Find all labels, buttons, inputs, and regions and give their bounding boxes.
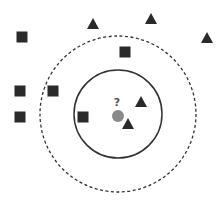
triangle-point	[122, 118, 134, 129]
query-label: ?	[114, 96, 120, 109]
triangle-point	[87, 18, 99, 29]
triangle-point	[135, 96, 147, 107]
square-point	[17, 32, 28, 43]
square-point	[120, 47, 131, 58]
square-point	[15, 86, 26, 97]
square-point	[78, 112, 89, 123]
triangle-point	[145, 13, 157, 24]
query-point	[112, 110, 124, 122]
square-point	[48, 86, 59, 97]
knn-diagram: ?	[0, 0, 223, 207]
diagram-canvas: ?	[0, 0, 223, 207]
square-point	[15, 112, 26, 123]
triangle-point	[201, 32, 213, 43]
